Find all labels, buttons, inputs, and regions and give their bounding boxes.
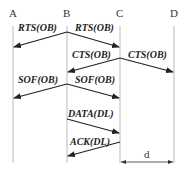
arrow-cts-cd <box>120 58 173 72</box>
arrow-sof-bc <box>67 84 119 98</box>
sequence-diagram: A B C D RTS(OB) RTS(OB) CTS(OB) CTS(OB) … <box>0 0 186 175</box>
msg-rts-ba-label: RTS(OB) <box>17 22 57 34</box>
msg-cts-cb-label: CTS(OB) <box>72 49 111 61</box>
msg-sof-bc-label: SOF(OB) <box>75 74 115 86</box>
arrow-rts-bc <box>67 32 119 47</box>
arrow-cts-cb <box>68 58 120 72</box>
node-label-a: A <box>9 7 17 19</box>
msg-rts-bc-label: RTS(OB) <box>74 22 114 34</box>
node-label-c: C <box>116 7 123 19</box>
node-label-b: B <box>63 7 70 19</box>
msg-cts-cd-label: CTS(OB) <box>128 49 167 61</box>
node-label-d: D <box>170 7 178 19</box>
distance-label: d <box>144 148 150 160</box>
arrow-data-bc <box>67 119 119 133</box>
msg-data-label: DATA(DL) <box>67 108 114 120</box>
arrow-rts-ba <box>14 32 67 47</box>
arrow-sof-ba <box>14 84 67 98</box>
msg-sof-ba-label: SOF(OB) <box>18 74 58 86</box>
